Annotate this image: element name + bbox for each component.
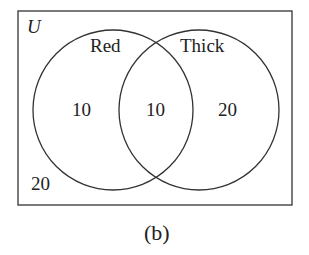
thick-only-count: 20: [218, 99, 237, 120]
red-only-count: 10: [72, 99, 91, 120]
venn-diagram: U Red Thick 10 10 20 20 (b): [0, 0, 309, 255]
universe-label: U: [27, 16, 42, 37]
intersection-count: 10: [146, 99, 165, 120]
set-red-label: Red: [90, 35, 121, 56]
figure-caption: (b): [144, 220, 170, 245]
set-thick-label: Thick: [180, 35, 225, 56]
outside-count: 20: [31, 173, 50, 194]
